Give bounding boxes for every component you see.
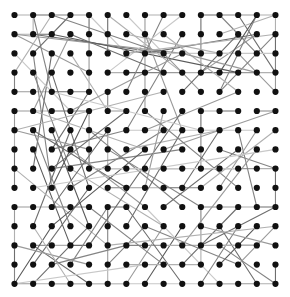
graph-node [11, 12, 17, 18]
graph-node [49, 281, 55, 287]
graph-node [235, 89, 241, 95]
graph-node [216, 127, 222, 133]
long-edge [126, 226, 163, 284]
graph-node [161, 31, 167, 37]
graph-node [272, 50, 278, 56]
graph-node [272, 146, 278, 152]
graph-node [161, 108, 167, 114]
graph-node [11, 108, 17, 114]
graph-node [161, 89, 167, 95]
graph-node [216, 89, 222, 95]
graph-node [216, 262, 222, 268]
graph-node [67, 262, 73, 268]
graph-node [198, 223, 204, 229]
graph-node [272, 31, 278, 37]
graph-node [30, 242, 36, 248]
graph-node [235, 50, 241, 56]
long-edge [33, 188, 89, 265]
graph-node [272, 70, 278, 76]
graph-node [142, 50, 148, 56]
graph-node [198, 242, 204, 248]
graph-node [235, 262, 241, 268]
graph-node [123, 262, 129, 268]
graph-node [86, 204, 92, 210]
graph-node [67, 281, 73, 287]
graph-node [142, 185, 148, 191]
graph-node [235, 242, 241, 248]
graph-node [216, 185, 222, 191]
graph-node [11, 70, 17, 76]
graph-node [123, 146, 129, 152]
graph-node [49, 204, 55, 210]
graph-node [142, 166, 148, 172]
graph-node [86, 127, 92, 133]
graph-node [30, 12, 36, 18]
graph-node [216, 223, 222, 229]
long-edge [33, 226, 89, 284]
graph-node [105, 70, 111, 76]
graph-node [49, 31, 55, 37]
graph-node [179, 50, 185, 56]
long-edge [108, 226, 276, 245]
graph-node [30, 204, 36, 210]
graph-node [198, 146, 204, 152]
graph-node [235, 204, 241, 210]
nodes-layer [11, 12, 278, 287]
graph-node [86, 146, 92, 152]
graph-node [235, 31, 241, 37]
graph-node [49, 50, 55, 56]
graph-node [67, 50, 73, 56]
graph-node [272, 89, 278, 95]
graph-node [179, 108, 185, 114]
graph-node [198, 204, 204, 210]
graph-node [49, 12, 55, 18]
graph-node [161, 223, 167, 229]
graph-node [49, 242, 55, 248]
graph-node [105, 12, 111, 18]
graph-node [11, 31, 17, 37]
graph-node [105, 31, 111, 37]
graph-node [235, 166, 241, 172]
graph-node [179, 31, 185, 37]
graph-node [30, 185, 36, 191]
graph-node [67, 223, 73, 229]
graph-node [11, 50, 17, 56]
graph-node [123, 223, 129, 229]
graph-node [254, 185, 260, 191]
long-edge [220, 15, 276, 34]
graph-node [11, 166, 17, 172]
graph-node [30, 127, 36, 133]
graph-node [49, 262, 55, 268]
graph-node [198, 108, 204, 114]
graph-node [198, 185, 204, 191]
long-edge [70, 169, 163, 227]
graph-node [123, 31, 129, 37]
graph-node [123, 242, 129, 248]
graph-node [235, 185, 241, 191]
graph-node [67, 166, 73, 172]
long-edge [89, 111, 182, 245]
graph-node [272, 166, 278, 172]
graph-node [30, 50, 36, 56]
graph-node [142, 262, 148, 268]
graph-node [235, 108, 241, 114]
graph-node [30, 262, 36, 268]
graph-node [105, 127, 111, 133]
graph-node [30, 281, 36, 287]
graph-node [161, 146, 167, 152]
graph-node [86, 12, 92, 18]
graph-node [123, 50, 129, 56]
graph-node [142, 223, 148, 229]
graph-node [235, 127, 241, 133]
graph-node [105, 89, 111, 95]
graph-node [179, 242, 185, 248]
graph-node [123, 127, 129, 133]
graph-node [161, 50, 167, 56]
graph-node [30, 31, 36, 37]
graph-node [11, 185, 17, 191]
graph-node [179, 70, 185, 76]
graph-node [86, 185, 92, 191]
graph-node [272, 204, 278, 210]
graph-node [86, 31, 92, 37]
graph-node [216, 31, 222, 37]
